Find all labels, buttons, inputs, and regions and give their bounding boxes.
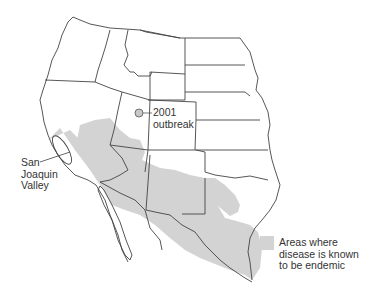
legend-line1: Areas where xyxy=(279,237,359,249)
legend-line3: to be endemic xyxy=(279,260,359,272)
outbreak-label-line1: 2001 xyxy=(153,107,194,119)
legend-swatch xyxy=(260,236,274,250)
san-joaquin-label: San Joaquin Valley xyxy=(21,157,58,192)
legend-label: Areas where disease is known to be endem… xyxy=(279,237,359,272)
outbreak-label-line2: outbreak xyxy=(153,119,194,131)
outbreak-label: 2001 outbreak xyxy=(153,107,194,130)
endemic-region xyxy=(48,118,262,280)
valley-label-line3: Valley xyxy=(21,180,58,192)
valley-label-line1: San xyxy=(21,157,58,169)
